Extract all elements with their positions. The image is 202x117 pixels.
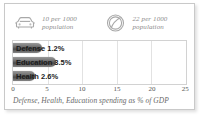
bar-label-defense: Defense 1.2% [16,41,64,56]
ball-icon [104,12,128,34]
bar-label-education: Education 3.5% [16,55,71,70]
x-axis: 0 5 10 15 20 25 [12,85,187,96]
stats-row: 10 per 1000 population 22 per 1000 popul… [5,8,194,38]
stat-text-cars: 10 per 1000 population [42,15,77,32]
stat-line2-phones: population [133,23,168,32]
bar-row: Health 2.6% [13,69,186,84]
stat-line1-phones: 22 per 1000 [133,15,168,23]
bar-row: Education 3.5% [13,55,186,70]
x-tick: 20 [149,85,156,93]
bar-row: Defense 1.2% [13,41,186,56]
car-icon [13,12,37,34]
x-tick: 15 [114,85,121,93]
stat-item-phones: 22 per 1000 population [100,8,191,38]
chart-caption: Defense, Health, Education spending as %… [13,96,188,105]
x-tick: 25 [182,85,189,93]
stat-line2-cars: population [42,23,77,32]
x-tick: 5 [45,85,49,93]
stat-line1-cars: 10 per 1000 [42,15,77,23]
stat-text-phones: 22 per 1000 population [133,15,168,32]
bar-series: Defense 1.2% Education 3.5% Health 2.6% [13,41,186,84]
x-tick: 10 [79,85,86,93]
plot-area: Defense 1.2% Education 3.5% Health 2.6% [12,40,187,85]
x-tick: 0 [11,85,15,93]
stat-item-cars: 10 per 1000 population [9,8,100,38]
bar-chart: Defense 1.2% Education 3.5% Health 2.6% [12,40,187,85]
infographic-card: 10 per 1000 population 22 per 1000 popul… [4,3,195,110]
bar-label-health: Health 2.6% [16,69,58,84]
